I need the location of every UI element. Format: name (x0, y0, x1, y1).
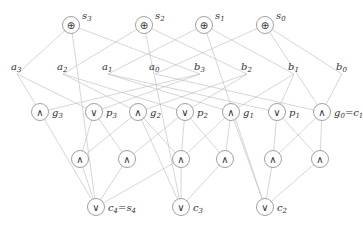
svg-text:∨: ∨ (92, 202, 99, 213)
svg-text:∧: ∧ (221, 154, 228, 165)
wire-g1-c2 (231, 112, 265, 207)
or-gate-icon: ∨ (86, 104, 103, 121)
and-gate-icon: ∧ (265, 151, 282, 168)
and-gate-icon: ∧ (32, 104, 49, 121)
svg-text:∨: ∨ (90, 107, 97, 118)
wire-a2-p2 (63, 74, 185, 112)
svg-text:∧: ∧ (316, 154, 323, 165)
or-gate-icon: ∨ (177, 104, 194, 121)
xor-gate-icon: ⊕ (196, 17, 213, 34)
xor-gate-icon: ⊕ (136, 17, 153, 34)
svg-text:⊕: ⊕ (261, 20, 269, 31)
wire-b1-g1 (231, 74, 294, 112)
or-gate-icon: ∨ (173, 199, 190, 216)
svg-text:∧: ∧ (134, 107, 141, 118)
label-s2: s2 (155, 10, 165, 23)
svg-text:∨: ∨ (261, 202, 268, 213)
label-b0: b0 (336, 61, 347, 74)
label-p2: p2 (197, 107, 208, 120)
xor-gate-icon: ⊕ (63, 17, 80, 34)
label-s3: s3 (82, 10, 92, 23)
and-gate-icon: ∧ (130, 104, 147, 121)
and-gate-icon: ∧ (173, 151, 190, 168)
label-g2: g2 (150, 107, 161, 120)
label-a1: a1 (102, 61, 112, 74)
svg-text:⊕: ⊕ (67, 20, 75, 31)
and-gate-icon: ∧ (223, 104, 240, 121)
and-gate-icon: ∧ (312, 151, 329, 168)
svg-text:∧: ∧ (36, 107, 43, 118)
wire-n4-c3 (181, 159, 225, 207)
svg-text:⊕: ⊕ (140, 20, 148, 31)
wire-b3-s3 (71, 25, 200, 74)
wire-b3-g3 (40, 74, 200, 112)
and-gate-icon: ∧ (72, 151, 89, 168)
label-s0: s0 (276, 10, 286, 23)
or-gate-icon: ∨ (269, 104, 286, 121)
nodes-layer: ⊕s3⊕s2⊕s1⊕s0a3a2a1a0b3b2b1b0∧g3∨p3∧g2∨p2… (11, 10, 363, 216)
or-gate-icon: ∨ (257, 199, 274, 216)
or-gate-icon: ∨ (88, 199, 105, 216)
label-a2: a2 (57, 61, 68, 74)
svg-text:∧: ∧ (318, 107, 325, 118)
xor-gate-icon: ⊕ (257, 17, 274, 34)
svg-text:∧: ∧ (177, 154, 184, 165)
svg-text:∨: ∨ (273, 107, 280, 118)
wire-b0-s0 (265, 25, 342, 74)
label-p1: p1 (289, 107, 300, 120)
label-b1: b1 (288, 61, 299, 74)
svg-text:∨: ∨ (181, 107, 188, 118)
svg-text:∨: ∨ (177, 202, 184, 213)
svg-text:⊕: ⊕ (200, 20, 208, 31)
and-gate-icon: ∧ (119, 151, 136, 168)
label-p3: p3 (106, 107, 117, 120)
and-gate-icon: ∧ (314, 104, 331, 121)
label-g3: g3 (52, 107, 63, 120)
wire-n3-c4 (96, 159, 181, 207)
and-gate-icon: ∧ (217, 151, 234, 168)
label-a0: a0 (149, 61, 160, 74)
svg-text:∧: ∧ (76, 154, 83, 165)
label-g0: g0=c1 (334, 107, 363, 120)
label-g1: g1 (243, 107, 254, 120)
svg-text:∧: ∧ (227, 107, 234, 118)
svg-text:∧: ∧ (123, 154, 130, 165)
svg-text:∧: ∧ (269, 154, 276, 165)
label-s1: s1 (215, 10, 225, 23)
caption-faint (95, 214, 295, 220)
circuit-diagram: ⊕s3⊕s2⊕s1⊕s0a3a2a1a0b3b2b1b0∧g3∨p3∧g2∨p2… (0, 0, 363, 227)
label-a3: a3 (11, 61, 22, 74)
